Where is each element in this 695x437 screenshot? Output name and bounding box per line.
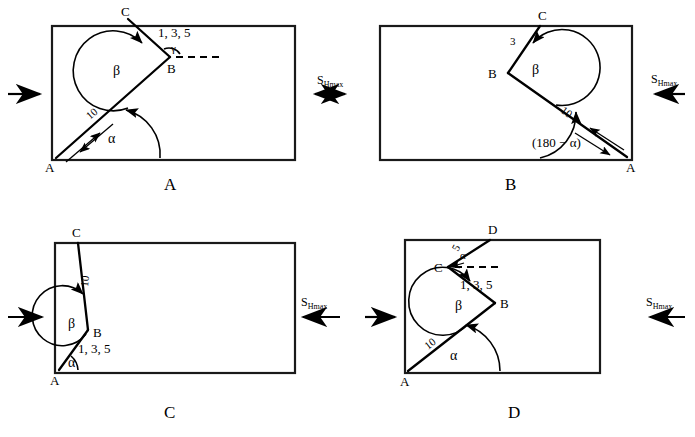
stress-label-panel-d-right: SHmax — [646, 295, 672, 311]
stress-arrow-between-a-b: SHmax — [315, 73, 345, 94]
stress-label-panel-c-right: SHmax — [301, 295, 327, 311]
stress-subscript: Hmax — [653, 302, 673, 311]
stress-symbol: S — [317, 73, 324, 87]
stress-subscript: Hmax — [308, 302, 328, 311]
stress-symbol: S — [301, 295, 308, 309]
stress-arrow-panel-c-right: SHmax — [301, 295, 340, 317]
stress-subscript: Hmax — [658, 79, 678, 88]
figure-container: A B C α β γ 10 1, 3, 5 A A B — [0, 0, 695, 437]
stress-arrow-layer: SHmax SHmax SHmax S — [0, 0, 695, 437]
stress-symbol: S — [651, 72, 658, 86]
stress-arrow-panel-b-right: SHmax — [651, 72, 685, 94]
stress-subscript: Hmax — [324, 80, 344, 89]
stress-label-panel-b-right: SHmax — [651, 72, 677, 88]
stress-symbol: S — [646, 295, 653, 309]
stress-label-between-a-b: SHmax — [317, 73, 343, 89]
stress-arrow-panel-d-right: SHmax — [646, 295, 685, 317]
